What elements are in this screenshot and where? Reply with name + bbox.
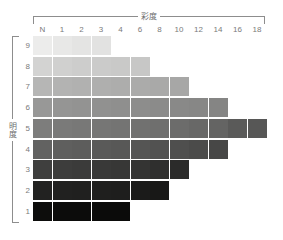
swatch-v5-c16 [228,119,247,138]
swatch-v5-c10 [170,119,189,138]
swatch-v8-c1 [53,57,72,76]
swatch-v5-c3 [92,119,111,138]
swatch-v2-c8 [150,181,169,200]
chroma-tick-8: 8 [150,25,169,35]
chroma-tick-3: 3 [92,25,111,35]
value-tick-9: 9 [18,36,30,56]
swatch-v4-cN [33,140,52,159]
swatch-v3-c4 [111,160,130,179]
swatch-v5-c2 [72,119,91,138]
chroma-tick-6: 6 [131,25,150,35]
swatch-v3-c8 [150,160,169,179]
swatch-v1-cN [33,202,52,221]
chroma-tick-2: 2 [72,25,91,35]
swatch-v9-c3 [92,36,111,55]
swatch-v1-c2 [72,202,91,221]
swatch-v7-c4 [111,77,130,96]
swatch-v9-cN [33,36,52,55]
value-tick-6: 6 [18,98,30,118]
swatch-v4-c2 [72,140,91,159]
swatch-v2-c1 [53,181,72,200]
value-tick-4: 4 [18,140,30,160]
swatch-v7-c10 [170,77,189,96]
swatch-v3-c2 [72,160,91,179]
swatch-v7-c2 [72,77,91,96]
swatch-v8-c3 [92,57,111,76]
chroma-tick-14: 14 [209,25,228,35]
swatch-v6-c12 [189,98,208,117]
swatch-v1-c3 [92,202,111,221]
chroma-tick-10: 10 [170,25,189,35]
swatch-v5-c8 [150,119,169,138]
swatch-v2-cN [33,181,52,200]
swatch-v6-c8 [150,98,169,117]
value-axis: 明度 [5,36,19,223]
swatch-v6-cN [33,98,52,117]
swatch-v6-c4 [111,98,130,117]
swatch-v7-c8 [150,77,169,96]
swatch-grid [33,36,265,223]
swatch-v2-c3 [92,181,111,200]
chroma-tick-N: N [33,25,52,35]
swatch-v8-c2 [72,57,91,76]
swatch-v5-cN [33,119,52,138]
value-tick-3: 3 [18,160,30,180]
chroma-tick-16: 16 [228,25,247,35]
swatch-v7-c6 [131,77,150,96]
swatch-v9-c2 [72,36,91,55]
swatch-v4-c4 [111,140,130,159]
value-tick-7: 7 [18,77,30,97]
chroma-tick-12: 12 [189,25,208,35]
swatch-v7-c1 [53,77,72,96]
swatch-v8-c6 [131,57,150,76]
swatch-v8-c4 [111,57,130,76]
chroma-tick-18: 18 [248,25,267,35]
chroma-tick-1: 1 [53,25,72,35]
swatch-v3-c10 [170,160,189,179]
value-tick-1: 1 [18,202,30,222]
swatch-v5-c6 [131,119,150,138]
swatch-v5-c14 [209,119,228,138]
color-value-chroma-chart: 彩度 明度 N1234681012141618 987654321 [0,0,283,240]
swatch-v6-c14 [209,98,228,117]
swatch-v6-c6 [131,98,150,117]
chroma-tick-labels: N1234681012141618 [33,25,265,35]
swatch-v6-c1 [53,98,72,117]
swatch-v4-c14 [209,140,228,159]
swatch-v5-c18 [248,119,267,138]
swatch-v1-c1 [53,202,72,221]
swatch-v5-c4 [111,119,130,138]
swatch-v7-c3 [92,77,111,96]
swatch-v5-c1 [53,119,72,138]
swatch-v4-c6 [131,140,150,159]
swatch-v3-c1 [53,160,72,179]
chroma-axis-label: 彩度 [138,11,160,22]
swatch-v9-c1 [53,36,72,55]
swatch-v4-c1 [53,140,72,159]
swatch-v3-cN [33,160,52,179]
value-tick-2: 2 [18,181,30,201]
swatch-v2-c4 [111,181,130,200]
swatch-v6-c2 [72,98,91,117]
swatch-v4-c12 [189,140,208,159]
swatch-v1-c4 [111,202,130,221]
swatch-v7-cN [33,77,52,96]
swatch-v3-c6 [131,160,150,179]
swatch-v5-c12 [189,119,208,138]
swatch-v6-c10 [170,98,189,117]
value-tick-5: 5 [18,119,30,139]
swatch-v2-c6 [131,181,150,200]
value-tick-8: 8 [18,57,30,77]
value-axis-label: 明度 [6,119,16,141]
swatch-v4-c8 [150,140,169,159]
swatch-v6-c3 [92,98,111,117]
swatch-v2-c2 [72,181,91,200]
swatch-v4-c3 [92,140,111,159]
swatch-v3-c3 [92,160,111,179]
chroma-axis: 彩度 [33,11,265,24]
chroma-tick-4: 4 [111,25,130,35]
swatch-v4-c10 [170,140,189,159]
value-tick-labels: 987654321 [18,36,32,223]
swatch-v8-cN [33,57,52,76]
